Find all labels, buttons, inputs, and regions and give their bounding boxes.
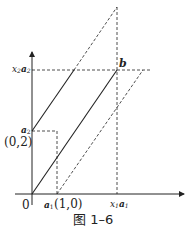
label-a2: a2: [21, 126, 31, 135]
solid-line-origin-to-b: [32, 70, 117, 194]
label-a2-coord: (0,2): [4, 136, 32, 148]
label-x1a1: x1a1: [110, 200, 129, 209]
label-b: b: [119, 58, 127, 69]
label-origin: 0: [22, 199, 30, 211]
label-a1-coord: (1,0): [54, 198, 82, 210]
solid-line-a2-to-top: [32, 70, 74, 131]
dashed-a1-diagonal: [57, 70, 143, 194]
label-x2a2: x2a2: [12, 65, 31, 74]
label-a1: a1: [44, 201, 54, 210]
figure-caption: 图 1–6: [73, 213, 113, 226]
dashed-upper-diagonal: [74, 7, 117, 70]
